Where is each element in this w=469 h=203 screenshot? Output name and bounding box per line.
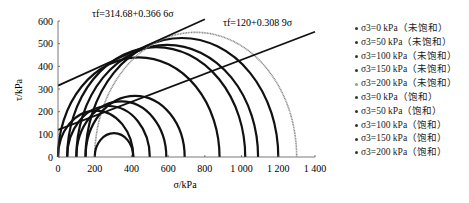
mohr-circle-chart: τf=314.68+0.366 6στf=120+0.308 9σ0200400… [0,0,350,190]
marker-icon [355,124,358,127]
legend-label: σ3=150 kPa（未饱和） [361,64,457,74]
legend-item: σ3=50 kPa（未饱和） [355,36,457,50]
legend-item: σ3=150 kPa（未饱和） [355,63,457,77]
y-tick-label: 300 [38,84,53,95]
legend-item: σ3=150 kPa（饱和） [355,132,457,146]
envelope-label-saturated: τf=120+0.308 9σ [223,17,293,28]
legend-item: σ3=50 kPa（饱和） [355,105,457,119]
marker-icon [355,41,358,44]
mohr-circle [58,57,220,157]
legend-item: σ3=200 kPa（饱和） [355,146,457,160]
marker-icon [355,110,358,113]
x-tick-label: 800 [197,163,212,174]
marker-icon [355,83,358,86]
y-tick-label: 0 [48,152,53,163]
y-axis-title: τ/kPa [13,79,24,101]
legend-label: σ3=100 kPa（未饱和） [361,51,457,61]
x-tick-label: 1 400 [304,163,327,174]
y-tick-label: 200 [38,106,53,117]
x-axis-title: σ/kPa [173,179,197,190]
legend-label: σ3=50 kPa（未饱和） [361,37,452,47]
legend-label: σ3=100 kPa（饱和） [361,120,447,130]
x-tick-label: 200 [87,163,102,174]
mohr-circle [95,133,134,157]
legend-item: σ3=100 kPa（饱和） [355,119,457,133]
envelope-label-unsaturated: τf=314.68+0.366 6σ [92,8,174,19]
legend-item: σ3=0 kPa（饱和） [355,91,457,105]
x-tick-label: 1 000 [230,163,253,174]
y-tick-label: 600 [38,16,53,27]
marker-icon [355,55,358,58]
legend-label: σ3=0 kPa（未饱和） [361,23,448,33]
y-tick-label: 100 [38,129,53,140]
legend-label: σ3=200 kPa（饱和） [361,147,447,157]
marker-icon [355,151,358,154]
y-tick-label: 500 [38,38,53,49]
legend-label: σ3=50 kPa（饱和） [361,106,442,116]
legend-item: σ3=200 kPa（未饱和） [355,77,457,91]
marker-icon [355,138,358,141]
x-tick-label: 400 [124,163,139,174]
legend-label: σ3=0 kPa（饱和） [361,92,438,102]
x-tick-label: 600 [161,163,176,174]
legend-item: σ3=0 kPa（未饱和） [355,22,457,36]
x-tick-label: 1 200 [267,163,290,174]
mohr-circle [76,45,258,157]
legend-item: σ3=100 kPa（未饱和） [355,50,457,64]
legend-label: σ3=200 kPa（未饱和） [361,78,457,88]
marker-icon [355,27,358,30]
chart-legend: σ3=0 kPa（未饱和） σ3=50 kPa（未饱和） σ3=100 kPa（… [355,22,457,160]
x-tick-label: 0 [56,163,61,174]
marker-icon [355,69,358,72]
y-tick-label: 400 [38,61,53,72]
marker-icon [355,96,358,99]
legend-label: σ3=150 kPa（饱和） [361,133,447,143]
